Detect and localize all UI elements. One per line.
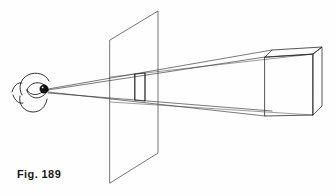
- box-object: [265, 47, 322, 116]
- eye-highlight: [42, 87, 44, 89]
- perspective-projection-drawing: [0, 0, 336, 196]
- picture-plane-outline: [110, 11, 158, 183]
- ray-bottom-back: [48, 93, 272, 111]
- eye-pupil: [45, 88, 48, 91]
- box-front-face: [265, 54, 313, 116]
- box-right-face: [313, 47, 322, 115]
- eye-cheek-stroke: [20, 96, 47, 112]
- projection-rays: [48, 50, 313, 116]
- ray-top-back: [48, 50, 272, 89]
- figure-caption: Fig. 189: [17, 168, 61, 180]
- picture-plane: [110, 11, 158, 183]
- eye-icon: [12, 73, 49, 112]
- figure-container: Fig. 189: [0, 0, 336, 196]
- eye-outer-wisp-lower: [13, 95, 23, 103]
- box-top-face: [265, 47, 322, 57]
